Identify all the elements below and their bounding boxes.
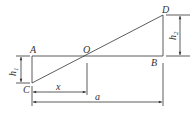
label-d: D [161, 4, 170, 15]
label-b: B [151, 57, 157, 68]
label-h2: h2 [167, 31, 180, 40]
label-h1: h1 [7, 68, 20, 77]
label-a: a [95, 91, 100, 102]
label-c: C [23, 84, 30, 95]
label-o: O [83, 44, 90, 55]
line-cd [32, 15, 163, 83]
label-x: x [55, 81, 61, 92]
label-a-point: A [29, 44, 37, 55]
beam-diagram: A O B C D h1 h2 x a [0, 0, 194, 119]
